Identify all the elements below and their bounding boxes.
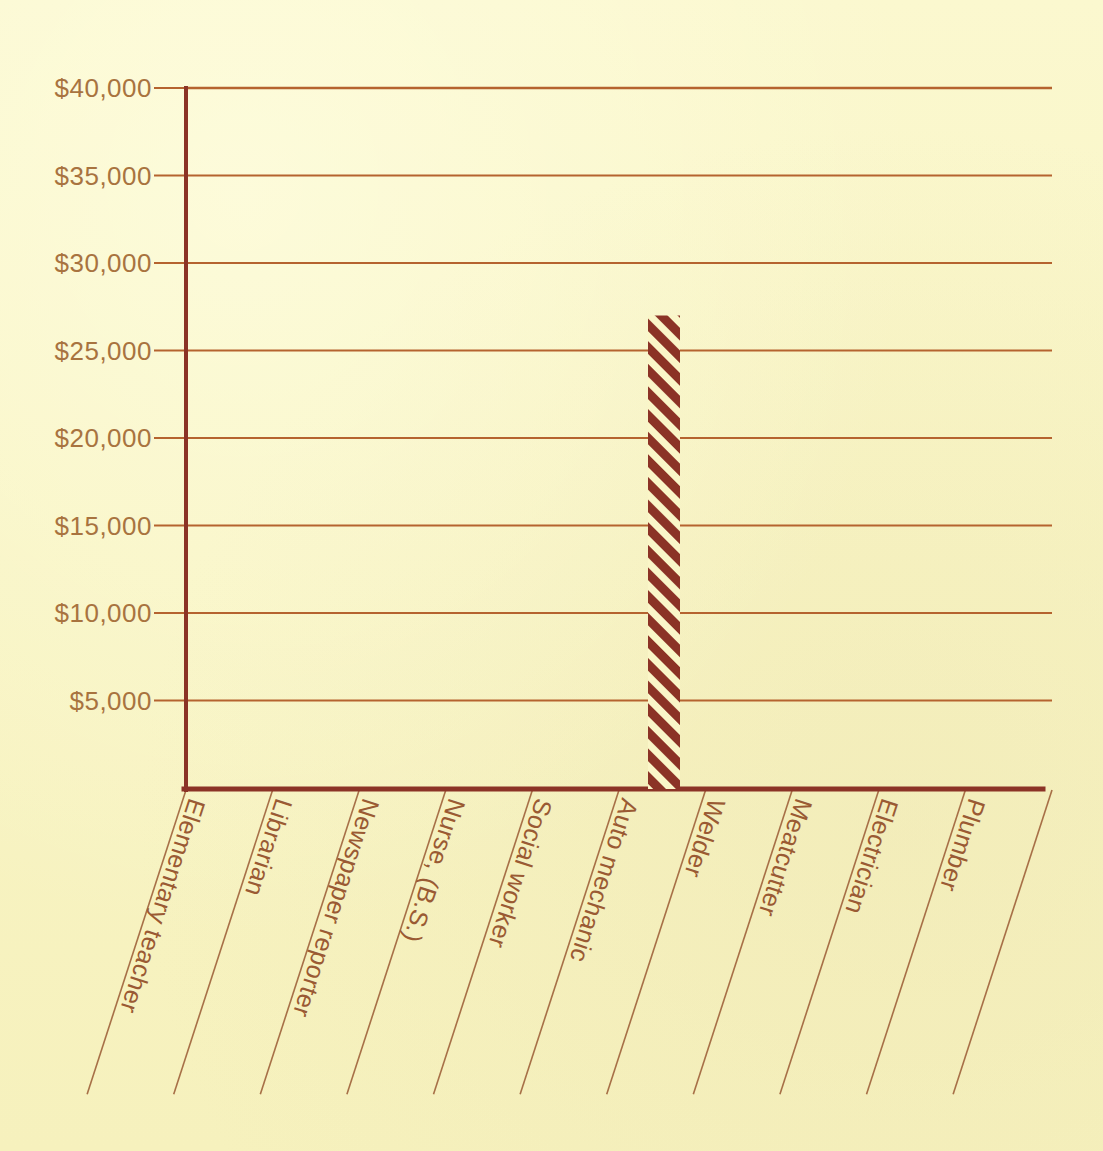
y-axis-tick-marks (154, 88, 186, 701)
category-separator-line (434, 790, 533, 1094)
bar-auto-mechanic (648, 316, 680, 790)
bar-chart: $5,000$10,000$15,000$20,000$25,000$30,00… (0, 0, 1103, 1151)
y-axis-tick-label: $10,000 (55, 598, 152, 629)
y-axis-tick-label: $35,000 (55, 160, 152, 191)
category-separator-line (867, 790, 966, 1094)
y-axis-tick-label: $15,000 (55, 510, 152, 541)
category-separator-line (953, 790, 1052, 1094)
category-separator-line (693, 790, 792, 1094)
bar-series (648, 316, 680, 790)
chart-plot-area (0, 0, 1103, 1151)
y-axis-tick-label: $5,000 (69, 685, 152, 716)
category-separator-line (607, 790, 706, 1094)
category-separator-line (520, 790, 619, 1094)
category-separator-line (174, 790, 273, 1094)
category-separator-line (780, 790, 879, 1094)
y-axis-tick-label: $25,000 (55, 335, 152, 366)
y-axis-tick-label: $20,000 (55, 423, 152, 454)
category-separator-lines (87, 790, 1052, 1094)
y-axis-tick-label: $30,000 (55, 248, 152, 279)
category-separator-line (260, 790, 359, 1094)
category-separator-line (347, 790, 446, 1094)
gridlines (186, 88, 1052, 701)
y-axis-tick-label: $40,000 (55, 73, 152, 104)
y-axis-tick-labels: $5,000$10,000$15,000$20,000$25,000$30,00… (0, 0, 152, 1151)
